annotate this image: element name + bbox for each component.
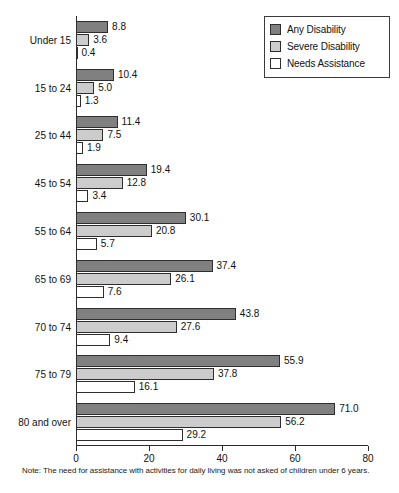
x-axis-tick-label: 60 (289, 453, 300, 464)
bar-value-label: 10.4 (118, 69, 137, 81)
category-label-column: Under 1515 to 2425 to 4445 to 5455 to 64… (0, 16, 71, 446)
bar-value-label: 11.4 (122, 116, 141, 128)
bar-needs-assistance (76, 286, 104, 298)
bar-severe-disability (76, 177, 123, 189)
x-axis-tick-label: 20 (143, 453, 154, 464)
x-axis-tick-label: 40 (216, 453, 227, 464)
x-axis-tick (368, 446, 369, 451)
category-label: 25 to 44 (35, 130, 71, 141)
x-axis-tick (149, 446, 150, 451)
bar-any-disability (76, 164, 147, 176)
bar-value-label: 19.4 (151, 164, 170, 176)
bar-any-disability (76, 355, 280, 367)
bar-value-label: 55.9 (284, 355, 303, 367)
chart-page: Any Disability Severe Disability Needs A… (0, 0, 399, 493)
bar-severe-disability (76, 368, 214, 380)
bar-value-label: 8.8 (112, 21, 126, 33)
bar-value-label: 7.6 (108, 286, 122, 298)
bar-value-label: 3.6 (93, 34, 107, 46)
category-label: 70 to 74 (35, 321, 71, 332)
bar-value-label: 5.7 (101, 238, 115, 250)
bar-value-label: 20.8 (156, 225, 175, 237)
bar-value-label: 3.4 (92, 190, 106, 202)
bar-needs-assistance (76, 381, 135, 393)
x-axis-tick (295, 446, 296, 451)
x-axis-tick-label: 0 (73, 453, 79, 464)
bar-any-disability (76, 116, 118, 128)
bar-any-disability (76, 403, 335, 415)
bar-value-label: 5.0 (98, 82, 112, 94)
category-label: 55 to 64 (35, 226, 71, 237)
bar-any-disability (76, 212, 186, 224)
category-label: Under 15 (30, 34, 71, 45)
bar-needs-assistance (76, 429, 183, 441)
bar-value-label: 9.4 (114, 334, 128, 346)
bar-severe-disability (76, 321, 177, 333)
bar-needs-assistance (76, 190, 88, 202)
bar-any-disability (76, 69, 114, 81)
bar-value-label: 56.2 (285, 416, 304, 428)
category-label: 75 to 79 (35, 369, 71, 380)
bar-severe-disability (76, 129, 103, 141)
bar-value-label: 1.9 (87, 142, 101, 154)
bar-value-label: 37.8 (218, 368, 237, 380)
bar-needs-assistance (76, 334, 110, 346)
bar-any-disability (76, 308, 236, 320)
bar-severe-disability (76, 225, 152, 237)
bar-severe-disability (76, 416, 281, 428)
x-axis-tick (76, 446, 77, 451)
bar-value-label: 43.8 (240, 308, 259, 320)
bar-any-disability (76, 260, 213, 272)
bar-severe-disability (76, 82, 94, 94)
bar-value-label: 37.4 (217, 260, 236, 272)
bar-needs-assistance (76, 95, 81, 107)
bar-value-label: 1.3 (85, 95, 99, 107)
category-label: 65 to 69 (35, 273, 71, 284)
bar-value-label: 16.1 (139, 381, 158, 393)
category-label: 15 to 24 (35, 82, 71, 93)
bar-value-label: 71.0 (339, 403, 358, 415)
category-label: 80 and over (18, 417, 71, 428)
x-axis-tick (222, 446, 223, 451)
bar-value-label: 26.1 (175, 273, 194, 285)
bar-value-label: 27.6 (181, 321, 200, 333)
bar-needs-assistance (76, 238, 97, 250)
category-label: 45 to 54 (35, 178, 71, 189)
plot-area: 0204060808.83.60.410.45.01.311.47.51.919… (76, 16, 368, 446)
bar-value-label: 29.2 (187, 429, 206, 441)
bar-value-label: 0.4 (82, 47, 96, 59)
bar-value-label: 30.1 (190, 212, 209, 224)
bar-value-label: 12.8 (127, 177, 146, 189)
bar-value-label: 7.5 (107, 129, 121, 141)
bar-severe-disability (76, 34, 89, 46)
chart-note: Note: The need for assistance with activ… (22, 466, 369, 475)
bar-needs-assistance (76, 47, 78, 59)
bar-any-disability (76, 21, 108, 33)
bar-severe-disability (76, 273, 171, 285)
x-axis-tick-label: 80 (362, 453, 373, 464)
bar-needs-assistance (76, 142, 83, 154)
